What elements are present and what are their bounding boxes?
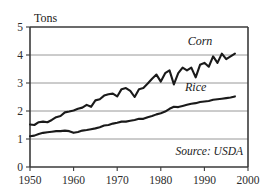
x-tick-label: 1960 xyxy=(62,174,85,186)
x-tick-label: 1990 xyxy=(193,174,216,186)
y-tick-label: 2 xyxy=(17,105,23,117)
x-tick-label: 1970 xyxy=(106,174,129,186)
series-label-rice: Rice xyxy=(184,80,207,94)
y-tick-label: 3 xyxy=(17,77,23,89)
line-chart: 012345 195019601970198019902000 CornRice… xyxy=(0,0,272,194)
x-tick-label: 2000 xyxy=(237,174,260,186)
y-tick-label: 5 xyxy=(17,21,23,33)
chart-container: 012345 195019601970198019902000 CornRice… xyxy=(0,0,272,194)
y-tick-label: 1 xyxy=(17,133,23,145)
y-tick-label: 4 xyxy=(17,49,23,61)
x-tick-label: 1980 xyxy=(149,174,172,186)
grid-lines xyxy=(30,55,248,139)
x-tick-label: 1950 xyxy=(19,174,42,186)
series-label-corn: Corn xyxy=(188,34,213,48)
y-tick-label: 0 xyxy=(17,161,23,173)
y-axis-title: Tons xyxy=(34,11,57,25)
series-labels: CornRice xyxy=(184,34,212,94)
source-annotation: Source: USDA xyxy=(175,145,244,157)
data-series xyxy=(30,54,235,137)
y-axis-tick-labels: 012345 xyxy=(17,21,23,173)
x-axis-tick-labels: 195019601970198019902000 xyxy=(19,174,260,186)
